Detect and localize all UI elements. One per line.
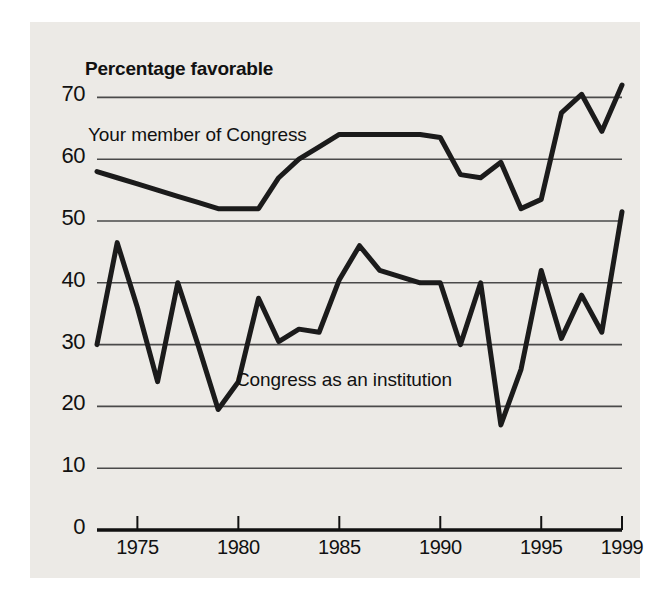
chart-figure: Percentage favorable Your member of Cong… [0,0,664,601]
series-line-your-member [97,85,622,209]
chart-title: Percentage favorable [85,58,273,80]
x-tick-marks-group [137,516,622,530]
y-axis-tick-label: 40 [33,267,85,293]
y-axis-tick-label: 10 [33,452,85,478]
x-axis-tick-label: 1985 [299,536,379,559]
x-axis-tick-label: 1999 [582,536,662,559]
x-axis-tick-label: 1990 [400,536,480,559]
series-label-congress-institution: Congress as an institution [236,369,452,391]
x-axis-tick-label: 1980 [198,536,278,559]
x-axis-tick-label: 1975 [97,536,177,559]
chart-plot-area [0,0,664,601]
y-axis-tick-label: 50 [33,205,85,231]
y-axis-tick-label: 30 [33,329,85,355]
y-axis-tick-label: 70 [33,81,85,107]
series-label-your-member: Your member of Congress [88,124,307,146]
series-line-congress-institution [97,212,622,425]
y-axis-tick-label: 60 [33,143,85,169]
x-axis-tick-label: 1995 [501,536,581,559]
y-axis-tick-label: 20 [33,390,85,416]
y-axis-tick-label: 0 [33,514,85,540]
